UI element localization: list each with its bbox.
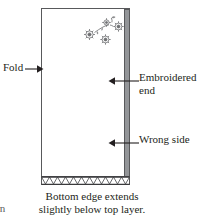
fabric-edge-band-top-cap [124,8,130,10]
fold-arrow-icon [25,64,45,74]
embroidered-floral-motif [83,12,127,50]
figure-caption: Bottom edge extends slightly below top l… [22,190,162,216]
wrong-side-label: Wrong side [139,133,190,146]
figure-canvas: Fold Embroidered end Wrong side Bottom e… [0,0,202,218]
fold-label: Fold [3,61,23,74]
cropped-text-fragment: rn [0,202,10,215]
embroidered-end-label-line2: end [139,84,155,96]
embroidered-end-arrow-icon [107,76,139,86]
zigzag-stitched-edge [41,176,130,185]
figure-caption-line2: slightly below top layer. [22,203,162,216]
embroidered-end-label-line1: Embroidered [139,71,196,83]
wrong-side-arrow-icon [107,138,139,148]
figure-caption-line1: Bottom edge extends [22,190,162,203]
embroidered-end-label: Embroidered end [139,71,201,96]
